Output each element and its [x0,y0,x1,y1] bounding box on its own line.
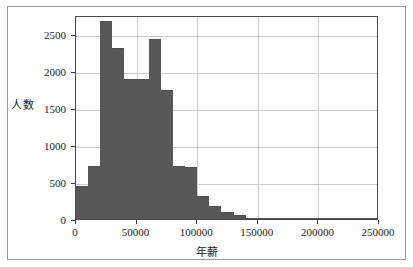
x-tick-label: 50000 [122,227,150,238]
y-tick-mark [71,183,75,184]
x-tick-label: 150000 [240,227,273,238]
plot-area [75,16,378,220]
histogram-bar [270,218,282,219]
histogram-bar [197,196,209,219]
histogram-bar [246,218,258,219]
y-axis-title: 人数 [11,96,34,112]
histogram-bar [331,218,343,219]
x-tick-mark [378,220,379,224]
histogram-bar [100,21,112,219]
x-tick-label: 0 [72,227,78,238]
y-tick-mark [71,35,75,36]
x-tick-label: 250000 [362,227,395,238]
histogram-bar [367,218,378,219]
histogram-bar [112,48,124,219]
histogram-bar [282,218,294,219]
y-tick-mark [71,72,75,73]
histogram-bar [221,212,233,219]
x-tick-mark [75,220,76,224]
histogram-bar [185,167,197,219]
x-tick-label: 200000 [301,227,334,238]
y-tick-mark [71,109,75,110]
y-tick-mark [71,146,75,147]
histogram-bar [355,218,367,219]
x-tick-mark [257,220,258,224]
histogram-bar [124,79,136,219]
y-tick-label: 2000 [0,67,66,78]
y-tick-label: 500 [0,178,66,189]
histogram-bar [76,186,88,219]
x-tick-mark [136,220,137,224]
histogram-figure: 05001000150020002500 0500001000001500002… [0,0,413,267]
histogram-bar [234,215,246,219]
x-tick-mark [196,220,197,224]
histogram-bar [88,166,100,219]
histogram-bar [161,90,173,219]
histogram-bars [76,17,377,219]
histogram-bar [258,218,270,219]
histogram-bar [343,218,355,219]
histogram-bar [173,166,185,219]
histogram-bar [294,218,306,219]
histogram-bar [137,79,149,219]
histogram-bar [149,39,161,219]
histogram-bar [318,218,330,219]
histogram-bar [306,218,318,219]
y-tick-label: 0 [0,215,66,226]
y-tick-label: 2500 [0,30,66,41]
x-tick-mark [317,220,318,224]
histogram-bar [209,206,221,219]
y-tick-label: 1000 [0,141,66,152]
x-tick-label: 100000 [180,227,213,238]
x-axis-title: 年薪 [0,243,413,259]
